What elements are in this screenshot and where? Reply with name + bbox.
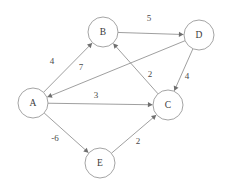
edge-weight-label: 5	[147, 13, 152, 23]
graph-node-c[interactable]: C	[153, 90, 183, 120]
node-label: D	[196, 30, 203, 40]
node-label: C	[165, 100, 171, 110]
node-label: E	[97, 158, 103, 168]
edge-weight-label: 2	[148, 69, 153, 79]
edge-d-a	[47, 41, 185, 98]
edge-line	[111, 115, 156, 153]
edge-a-c	[48, 102, 153, 107]
edge-weight-label: 4	[185, 71, 190, 81]
graph-diagram: ABCDE 475243-62	[0, 0, 226, 186]
edge-weight-label: 3	[94, 90, 99, 100]
arrow-head-icon	[148, 102, 153, 107]
node-label: B	[100, 27, 106, 37]
edge-weight-label: 7	[79, 62, 84, 72]
edge-weight-label: 2	[136, 136, 141, 146]
edge-line	[174, 49, 193, 91]
graph-node-a[interactable]: A	[18, 88, 48, 118]
graph-node-b[interactable]: B	[88, 17, 118, 47]
graph-node-e[interactable]: E	[85, 148, 115, 178]
edge-a-b	[44, 43, 93, 92]
edge-line	[118, 32, 184, 34]
edge-b-d	[118, 32, 184, 37]
edge-weight-label: 4	[50, 56, 55, 66]
edge-e-c	[111, 115, 156, 153]
edge-line	[48, 103, 153, 105]
arrow-head-icon	[179, 32, 184, 37]
edge-line	[47, 41, 185, 97]
node-label: A	[30, 98, 37, 108]
edge-line	[44, 43, 93, 92]
edge-weight-label: -6	[51, 133, 59, 143]
edge-d-c	[174, 49, 193, 91]
graph-node-d[interactable]: D	[184, 20, 214, 50]
edge-weight-layer: 475243-62	[50, 13, 190, 146]
